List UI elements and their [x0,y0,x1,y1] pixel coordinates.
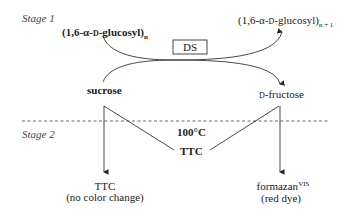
ttc-reagent-label: TTC [180,145,203,157]
glucosyl-n-label: (1,6-α-D-glucosyl)n [62,26,148,43]
temperature-label: 100°C [177,126,206,138]
right-outcome-line2: (red dye) [248,192,314,204]
line-ttc-to-fructose [210,106,279,150]
left-outcome-line2: (no color change) [64,191,146,203]
fructose-label: D-fructose [259,88,304,102]
curve-sucrose-to-fructose [103,60,280,84]
enzyme-ds-label: DS [173,41,207,53]
stage-2-label: Stage 2 [22,128,55,140]
glucosyl-n-plus-1-label: (1,6-α-D-glucosyl)n + 1 [238,14,333,31]
sucrose-label: sucrose [87,84,122,96]
stage-1-label: Stage 1 [22,12,55,24]
line-sucrose-to-ttc [104,106,174,150]
right-outcome-line1: formazanVIS [248,178,318,192]
reaction-diagram: Stage 1 Stage 2 (1,6-α-D-glucosyl)n (1,6… [0,0,351,216]
